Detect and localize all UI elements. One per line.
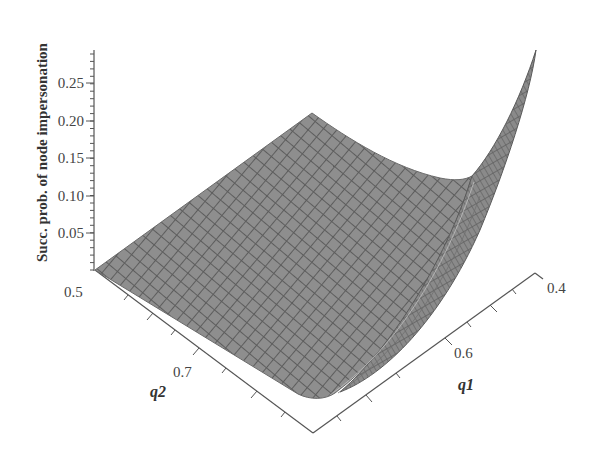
q1-tick-label: 0.4: [547, 280, 566, 296]
z-tick-label: 0.05: [58, 225, 84, 241]
z-tick-label: 0.20: [58, 113, 84, 129]
q2-tick-label: 0.5: [64, 284, 83, 300]
q2-tick-label: 0.7: [173, 364, 192, 380]
z-tick-label: 0.15: [58, 150, 84, 166]
z-tick-label: 0.10: [58, 188, 84, 204]
z-axis-title: Succ. prob. of node impersonation: [34, 42, 50, 262]
q1-tick-label: 0.6: [454, 345, 473, 361]
surface-plot: 0.05 0.10 0.15 0.20 0.25 Succ. prob. of …: [0, 0, 593, 454]
q1-axis-title: q1: [458, 376, 474, 394]
surface-main-sheet: [95, 113, 472, 398]
z-tick-label: 0.25: [58, 75, 84, 91]
q2-axis-title: q2: [150, 383, 166, 401]
z-axis: 0.05 0.10 0.15 0.20 0.25 Succ. prob. of …: [34, 42, 94, 271]
